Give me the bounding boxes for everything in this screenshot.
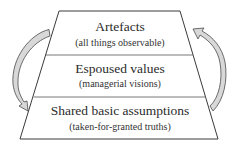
layer-title: Espoused values (75, 61, 165, 76)
layer-title: Shared basic assumptions (51, 103, 190, 118)
layer-subtitle: (managerial visions) (79, 78, 161, 90)
layer-subtitle: (taken-for-granted truths) (69, 121, 171, 133)
layer-espoused-values: Espoused values (managerial visions) (75, 61, 165, 90)
layer-subtitle: (all things observable) (75, 37, 164, 49)
layer-title: Artefacts (95, 19, 144, 34)
culture-levels-diagram: Artefacts (all things observable) Espous… (0, 0, 240, 149)
